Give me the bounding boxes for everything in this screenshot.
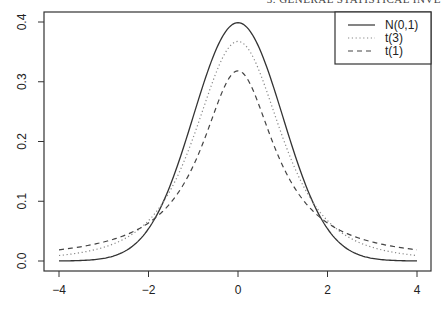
y-tick-label: 0.1	[15, 193, 29, 210]
legend-label: t(1)	[385, 44, 403, 58]
x-tick-label: 4	[414, 283, 421, 297]
legend-label: N(0,1)	[385, 18, 418, 32]
legend-label: t(3)	[385, 31, 403, 45]
curve-t1	[59, 71, 417, 250]
x-tick-label: 2	[324, 283, 331, 297]
y-tick-label: 0.4	[15, 13, 29, 30]
y-tick-label: 0.0	[15, 252, 29, 269]
x-tick-label: −4	[52, 283, 66, 297]
curve-t3	[59, 41, 417, 255]
y-tick-label: 0.2	[15, 133, 29, 150]
density-chart: −4−20240.00.10.20.30.4N(0,1)t(3)t(1)	[0, 0, 441, 309]
x-tick-label: −2	[142, 283, 156, 297]
x-tick-label: 0	[235, 283, 242, 297]
y-tick-label: 0.3	[15, 73, 29, 90]
